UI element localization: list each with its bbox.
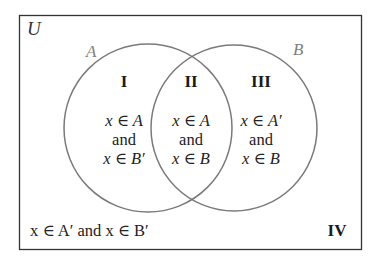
set-a-label: A: [86, 42, 96, 62]
region-ii-line2: and: [151, 130, 231, 149]
set-b-label: B: [293, 40, 303, 60]
region-iii-numeral: III: [243, 72, 279, 92]
region-ii-numeral: II: [176, 72, 206, 92]
region-iv-numeral: IV: [322, 221, 352, 241]
universe-label: U: [27, 18, 41, 40]
region-ii-description: x ∈ A and x ∈ B: [151, 111, 231, 168]
region-iv-description: x ∈ A′ and x ∈ B′: [30, 221, 149, 241]
region-i-numeral: I: [112, 72, 136, 92]
region-ii-line3: x ∈ B: [151, 149, 231, 168]
region-iii-line3: x ∈ B: [221, 149, 301, 168]
region-ii-line1: x ∈ A: [151, 111, 231, 130]
region-iii-line1: x ∈ A′: [221, 111, 301, 130]
region-iii-line2: and: [221, 130, 301, 149]
region-iii-description: x ∈ A′ and x ∈ B: [221, 111, 301, 168]
